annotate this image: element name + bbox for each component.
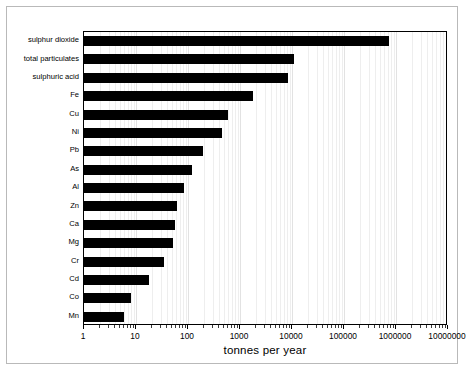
bar — [84, 183, 184, 193]
x-tick-minor — [171, 325, 172, 328]
x-tick-minor — [431, 325, 432, 328]
x-tick-minor — [335, 325, 336, 328]
x-tick-minor — [212, 325, 213, 328]
x-tick-minor — [442, 325, 443, 328]
bar — [84, 128, 222, 138]
x-tick-minor — [123, 325, 124, 328]
x-tick-minor — [322, 325, 323, 328]
x-tick-minor — [151, 325, 152, 328]
bar-row — [84, 142, 447, 160]
bar — [84, 257, 164, 267]
x-tick-minor — [127, 325, 128, 328]
x-tick-minor — [175, 325, 176, 328]
y-axis-category-label: Mn — [0, 311, 79, 321]
bar-row — [84, 179, 447, 197]
x-tick-minor — [160, 325, 161, 328]
x-tick-minor — [359, 325, 360, 328]
y-axis-category-label: Mg — [0, 237, 79, 247]
x-tick-minor — [275, 325, 276, 328]
y-axis-category-label: Fe — [0, 90, 79, 100]
y-axis-category-label: Zn — [0, 201, 79, 211]
y-axis-category-label: Cr — [0, 256, 79, 266]
x-tick-minor — [411, 325, 412, 328]
bar — [84, 165, 192, 175]
y-axis-category-label: Pb — [0, 145, 79, 155]
bar-row — [84, 69, 447, 87]
y-axis-category-label: sulphuric acid — [0, 72, 79, 82]
x-tick-minor — [264, 325, 265, 328]
bar-row — [84, 308, 447, 325]
x-tick-label: 100000 — [329, 331, 357, 342]
y-axis-category-label: total particulates — [0, 54, 79, 64]
y-axis-category-label: Cd — [0, 274, 79, 284]
x-tick-label: 100 — [180, 331, 194, 342]
x-tick-major — [83, 325, 84, 329]
x-tick-minor — [114, 325, 115, 328]
bar — [84, 110, 228, 120]
x-tick-minor — [218, 325, 219, 328]
x-tick-minor — [439, 325, 440, 328]
bar — [84, 36, 389, 46]
y-axis-category-label: Al — [0, 182, 79, 192]
bar — [84, 54, 294, 64]
y-axis-category-label: Co — [0, 292, 79, 302]
x-tick-minor — [289, 325, 290, 328]
bar-row — [84, 253, 447, 271]
x-tick-major — [135, 325, 136, 329]
x-tick-minor — [387, 325, 388, 328]
x-tick-major — [187, 325, 188, 329]
x-tick-minor — [383, 325, 384, 328]
x-tick-minor — [316, 325, 317, 328]
x-tick-label: 1000 — [230, 331, 249, 342]
bar — [84, 146, 203, 156]
x-tick-minor — [133, 325, 134, 328]
x-tick-minor — [185, 325, 186, 328]
bar — [84, 312, 124, 322]
x-tick-minor — [286, 325, 287, 328]
y-axis-category-label: As — [0, 164, 79, 174]
x-tick-minor — [368, 325, 369, 328]
x-tick-minor — [283, 325, 284, 328]
x-tick-minor — [420, 325, 421, 328]
bar — [84, 220, 175, 230]
y-axis-category-labels: sulphur dioxidetotal particulatessulphur… — [0, 31, 79, 325]
x-tick-major — [291, 325, 292, 329]
bar-row — [84, 161, 447, 179]
x-tick-minor — [435, 325, 436, 328]
x-tick-major — [239, 325, 240, 329]
x-tick-minor — [231, 325, 232, 328]
x-tick-major — [447, 325, 448, 329]
bar-row — [84, 124, 447, 142]
x-tick-minor — [279, 325, 280, 328]
bar — [84, 275, 149, 285]
x-tick-minor — [99, 325, 100, 328]
x-axis-tick-labels: 110100100010000100000100000010000000 — [0, 331, 465, 345]
x-tick-minor — [331, 325, 332, 328]
x-tick-minor — [426, 325, 427, 328]
x-tick-minor — [166, 325, 167, 328]
x-tick-minor — [108, 325, 109, 328]
x-tick-minor — [203, 325, 204, 328]
x-tick-minor — [270, 325, 271, 328]
x-tick-minor — [379, 325, 380, 328]
bar — [84, 238, 173, 248]
x-tick-label: 10000 — [279, 331, 302, 342]
x-tick-minor — [119, 325, 120, 328]
x-tick-minor — [130, 325, 131, 328]
x-tick-minor — [179, 325, 180, 328]
x-tick-major — [343, 325, 344, 329]
x-tick-minor — [227, 325, 228, 328]
bar-row — [84, 216, 447, 234]
x-tick-label: 1000000 — [379, 331, 412, 342]
bar-row — [84, 197, 447, 215]
x-tick-minor — [237, 325, 238, 328]
x-tick-minor — [338, 325, 339, 328]
x-tick-minor — [327, 325, 328, 328]
bar — [84, 91, 253, 101]
y-axis-category-label: Ca — [0, 219, 79, 229]
x-tick-major — [395, 325, 396, 329]
y-axis-category-label: sulphur dioxide — [0, 35, 79, 45]
bar-row — [84, 234, 447, 252]
bar — [84, 201, 177, 211]
